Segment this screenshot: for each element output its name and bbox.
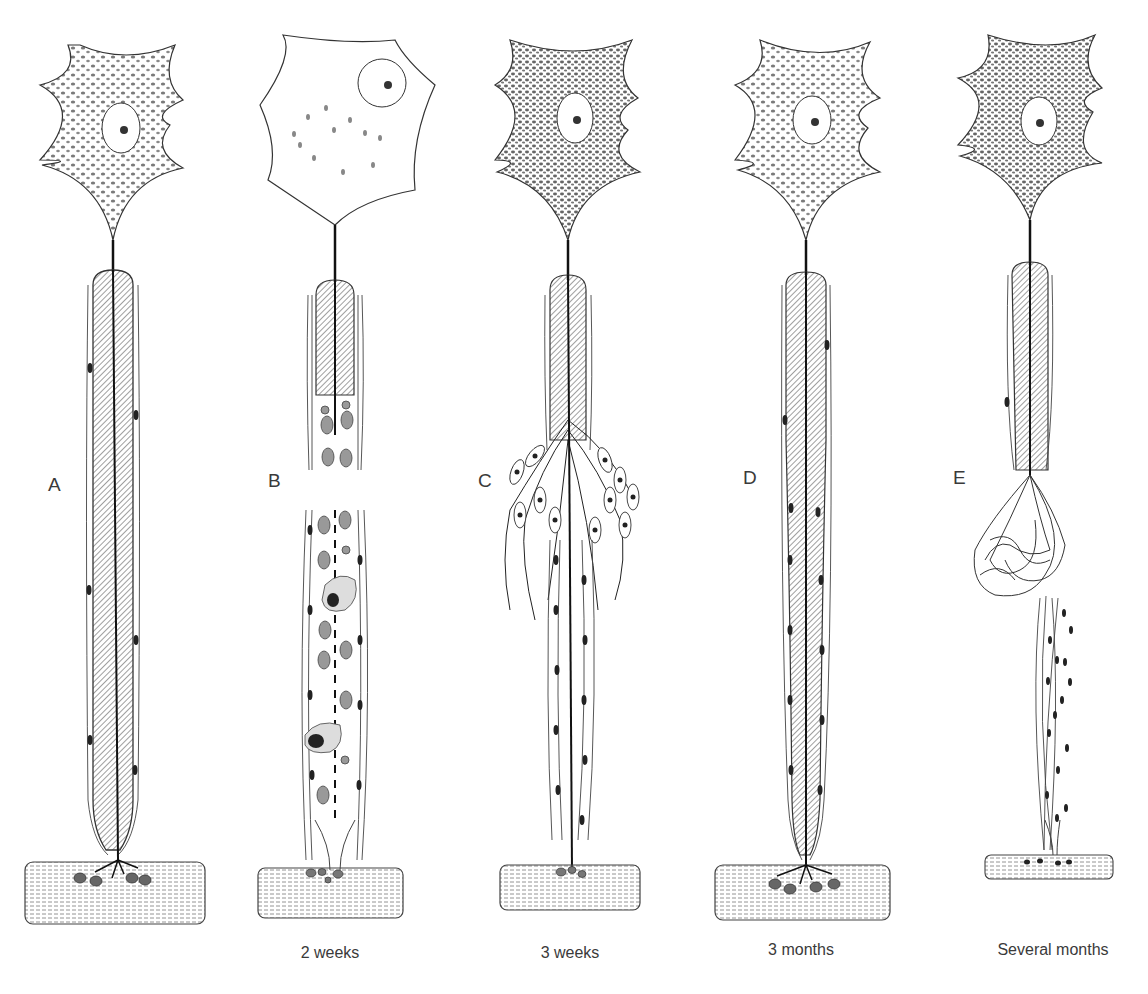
nerve-regeneration-diagram xyxy=(0,0,1148,994)
caption-b: 2 weeks xyxy=(250,944,410,962)
muscle-fiber-d xyxy=(715,865,890,920)
panel-c xyxy=(495,40,640,910)
macrophage-1 xyxy=(322,576,356,611)
caption-e: Several months xyxy=(973,941,1133,959)
muscle-fiber-e xyxy=(985,855,1113,879)
neuroma-e xyxy=(974,475,1065,596)
panel-label-b: B xyxy=(268,470,281,492)
panel-e xyxy=(958,35,1113,879)
distal-band-e xyxy=(1036,596,1073,855)
panel-label-c: C xyxy=(478,470,492,492)
panel-b xyxy=(258,35,435,918)
muscle-fiber-a xyxy=(25,860,205,924)
muscle-fiber-c xyxy=(500,865,640,910)
muscle-fiber-b xyxy=(258,868,403,918)
panel-label-e: E xyxy=(953,467,966,489)
panel-label-d: D xyxy=(743,467,757,489)
panel-d xyxy=(715,40,890,920)
panel-label-a: A xyxy=(48,474,61,496)
distal-segment-b xyxy=(302,510,368,870)
nucleus-b xyxy=(358,59,406,107)
caption-c: 3 weeks xyxy=(490,944,650,962)
neuron-soma-b xyxy=(260,35,435,225)
caption-d: 3 months xyxy=(721,941,881,959)
